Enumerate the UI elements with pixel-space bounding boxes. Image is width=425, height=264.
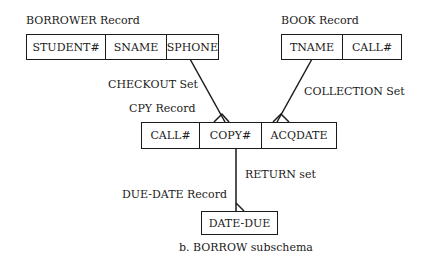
field-student-no: STUDENT#: [27, 35, 106, 59]
return-crowfoot-icon: [236, 203, 244, 211]
checkout-set-label: CHECKOUT Set: [108, 78, 198, 91]
book-record: TNAME CALL#: [281, 34, 402, 60]
collection-set-label: COLLECTION Set: [304, 85, 405, 98]
field-sname: SNAME: [106, 35, 167, 59]
field-date-due: DATE-DUE: [202, 212, 277, 234]
borrower-record-title: BORROWER Record: [26, 14, 140, 27]
field-copy-no: COPY#: [200, 123, 262, 148]
field-acqdate: ACQDATE: [262, 123, 336, 148]
field-cpy-call-no: CALL#: [142, 123, 200, 148]
field-sphone: SPHONE: [167, 35, 218, 59]
cpy-record: CALL# COPY# ACQDATE: [141, 122, 337, 149]
book-record-title: BOOK Record: [281, 14, 359, 27]
return-set-label: RETURN set: [245, 168, 316, 181]
checkout-crowfoot-icon: [214, 114, 229, 122]
field-call-no: CALL#: [343, 35, 401, 59]
figure-caption: b. BORROW subschema: [179, 241, 313, 254]
borrower-record: STUDENT# SNAME SPHONE: [26, 34, 219, 60]
field-tname: TNAME: [282, 35, 343, 59]
due-date-record: DATE-DUE: [201, 211, 278, 235]
cpy-record-title: CPY Record: [129, 102, 195, 115]
due-date-record-title: DUE-DATE Record: [122, 188, 227, 201]
